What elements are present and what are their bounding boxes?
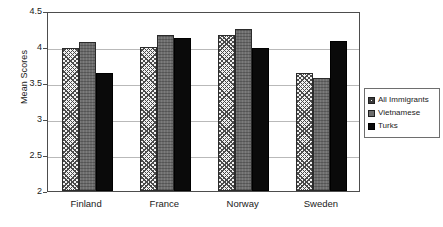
bar xyxy=(218,35,235,191)
y-axis-tick-mark xyxy=(43,192,47,193)
legend-item[interactable]: Turks xyxy=(368,120,437,132)
bar xyxy=(174,38,191,191)
bar xyxy=(313,78,330,191)
x-axis-category-label: Sweden xyxy=(282,198,360,209)
legend-swatch-icon xyxy=(368,97,375,104)
y-axis-tick-label: 3.5 xyxy=(20,79,42,88)
y-axis-tick-mark xyxy=(43,84,47,85)
x-axis-category-labels: FinlandFranceNorwaySweden xyxy=(47,198,360,216)
legend-item[interactable]: All Immigrants xyxy=(368,94,437,106)
bar xyxy=(62,48,79,191)
y-axis-tick-label: 2.5 xyxy=(20,151,42,160)
y-axis-tick-mark xyxy=(43,120,47,121)
bar-chart: Mean Scores 4.543.532.52 FinlandFranceNo… xyxy=(0,0,443,227)
legend-item[interactable]: Vietnamese xyxy=(368,107,437,119)
bar xyxy=(252,48,269,191)
y-axis-tick-mark xyxy=(43,12,47,13)
bar xyxy=(96,73,113,191)
x-axis-category-label: France xyxy=(125,198,203,209)
bars-layer xyxy=(48,13,359,191)
y-axis-tick-mark xyxy=(43,156,47,157)
legend-item-label: Turks xyxy=(378,122,398,130)
legend-item-label: All Immigrants xyxy=(378,96,429,104)
y-axis-tick-label: 2 xyxy=(20,187,42,196)
bar xyxy=(235,29,252,191)
y-axis-tick-label: 4.5 xyxy=(20,7,42,16)
bar xyxy=(296,73,313,191)
legend-swatch-icon xyxy=(368,123,375,130)
bar xyxy=(140,47,157,191)
x-axis-category-label: Norway xyxy=(204,198,282,209)
bar xyxy=(330,41,347,191)
y-axis-tick-label: 4 xyxy=(20,43,42,52)
bar xyxy=(157,35,174,191)
legend-item-label: Vietnamese xyxy=(378,109,420,117)
legend-swatch-icon xyxy=(368,110,375,117)
bar xyxy=(79,42,96,191)
plot-area xyxy=(47,12,360,192)
x-axis-category-label: Finland xyxy=(47,198,125,209)
y-axis-tick-mark xyxy=(43,48,47,49)
chart-legend: All ImmigrantsVietnameseTurks xyxy=(364,88,440,138)
y-axis-tick-label: 3 xyxy=(20,115,42,124)
y-axis-tick-labels: 4.543.532.52 xyxy=(16,0,42,227)
